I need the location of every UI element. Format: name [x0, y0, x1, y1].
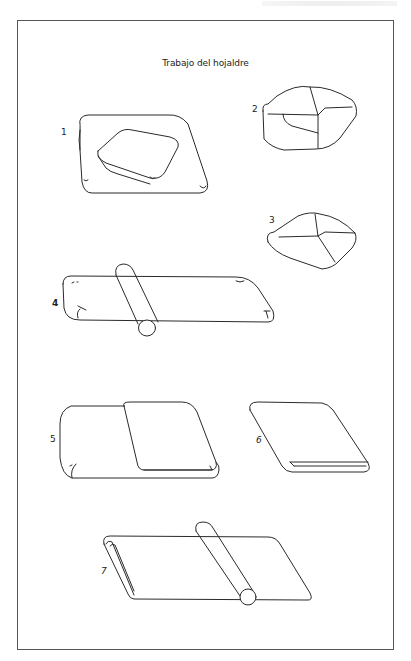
step-2-drawing: [263, 86, 357, 150]
step-3-drawing: [267, 213, 356, 269]
step-4-drawing: [63, 264, 274, 336]
step-1-drawing: [79, 115, 208, 193]
puff-pastry-steps-illustration: [0, 0, 411, 661]
step-7-drawing: [104, 522, 312, 605]
step-6-drawing: [250, 402, 370, 472]
step-5-drawing: [60, 402, 219, 478]
